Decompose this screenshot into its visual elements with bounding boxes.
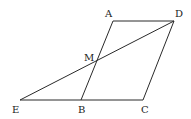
- label-A: A: [104, 8, 113, 19]
- geometry-figure: A D M E B C: [0, 0, 191, 119]
- label-B: B: [78, 104, 85, 115]
- segment-DC: [143, 21, 174, 100]
- label-E: E: [12, 104, 19, 115]
- segment-ED: [20, 21, 174, 100]
- label-D: D: [175, 8, 183, 19]
- label-M: M: [84, 52, 94, 63]
- label-C: C: [141, 104, 149, 115]
